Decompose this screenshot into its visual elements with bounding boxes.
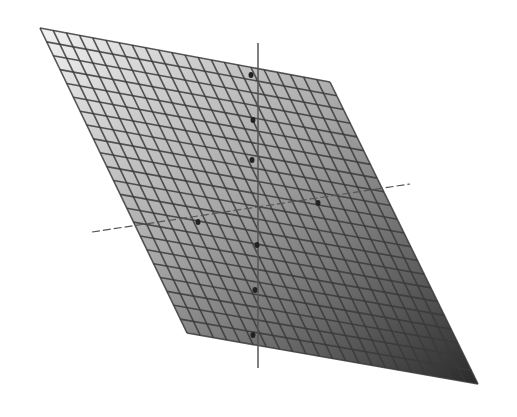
plane-diagram <box>0 0 517 417</box>
plane-3d-figure <box>0 0 517 417</box>
